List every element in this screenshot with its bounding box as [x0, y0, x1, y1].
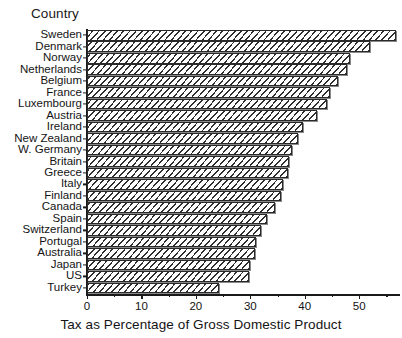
bar-row: Britain — [87, 156, 400, 167]
bar — [87, 202, 275, 213]
bar — [87, 271, 249, 282]
bar — [87, 168, 288, 179]
bar — [87, 145, 292, 156]
bar — [87, 64, 347, 75]
plot-area: SwedenDenmarkNorwayNetherlandsBelgiumFra… — [87, 30, 400, 294]
bar — [87, 248, 255, 259]
bar-row: US — [87, 271, 400, 282]
bar-row: Luxembourg — [87, 99, 400, 110]
x-major-tick — [87, 294, 88, 299]
bar — [87, 191, 281, 202]
bar-row: Denmark — [87, 41, 400, 52]
bar-row: W. Germany — [87, 145, 400, 156]
bar-row: Italy — [87, 179, 400, 190]
x-major-tick — [305, 294, 306, 299]
x-tick-label: 50 — [353, 300, 366, 312]
bar-row: Australia — [87, 248, 400, 259]
bar-row: Sweden — [87, 30, 400, 41]
bar — [87, 30, 396, 41]
bar-row: Japan — [87, 260, 400, 271]
bar-row: Switzerland — [87, 225, 400, 236]
bar — [87, 214, 267, 225]
bar — [87, 122, 303, 133]
x-axis-title: Tax as Percentage of Gross Domestic Prod… — [0, 317, 402, 332]
x-minor-tick — [169, 294, 170, 297]
bar-row: New Zealand — [87, 133, 400, 144]
bar — [87, 41, 370, 52]
x-tick-label: 10 — [135, 300, 148, 312]
bar-row: Norway — [87, 53, 400, 64]
bar-row: Netherlands — [87, 64, 400, 75]
x-tick-label: 0 — [84, 300, 90, 312]
bar-chart: Country SwedenDenmarkNorwayNetherlandsBe… — [0, 0, 402, 338]
x-tick-label: 30 — [244, 300, 257, 312]
bar — [87, 260, 250, 271]
x-major-tick — [250, 294, 251, 299]
x-minor-tick — [386, 294, 387, 297]
y-axis-title: Country — [31, 6, 79, 21]
x-minor-tick — [332, 294, 333, 297]
x-tick-label: 40 — [298, 300, 311, 312]
bar — [87, 87, 330, 98]
bar — [87, 99, 327, 110]
x-axis-line — [86, 294, 400, 296]
x-minor-tick — [114, 294, 115, 297]
bar — [87, 283, 219, 294]
bar-row: Greece — [87, 168, 400, 179]
bar — [87, 179, 283, 190]
x-major-tick — [196, 294, 197, 299]
bar-row: Finland — [87, 191, 400, 202]
bar — [87, 225, 261, 236]
bar-row: Spain — [87, 214, 400, 225]
x-minor-tick — [278, 294, 279, 297]
bar — [87, 53, 350, 64]
category-label: Turkey — [47, 282, 82, 294]
bar-row: Portugal — [87, 237, 400, 248]
x-tick-label: 20 — [189, 300, 202, 312]
bar-row: France — [87, 87, 400, 98]
bar-row: Turkey — [87, 283, 400, 294]
bar-row: Ireland — [87, 122, 400, 133]
bar — [87, 76, 338, 87]
x-minor-tick — [223, 294, 224, 297]
x-major-tick — [141, 294, 142, 299]
bar — [87, 156, 289, 167]
bar — [87, 237, 256, 248]
bar — [87, 133, 298, 144]
bar — [87, 110, 317, 121]
bar-row: Canada — [87, 202, 400, 213]
bar-row: Austria — [87, 110, 400, 121]
x-major-tick — [359, 294, 360, 299]
bar-row: Belgium — [87, 76, 400, 87]
